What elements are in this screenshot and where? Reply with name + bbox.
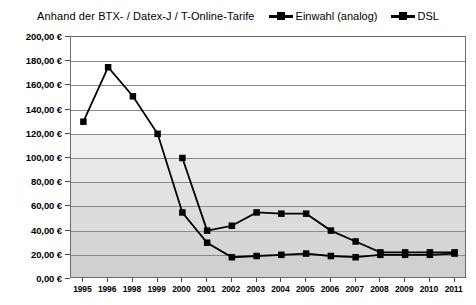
data-series-layer bbox=[71, 37, 466, 278]
y-axis-tick-label: 100,00 € bbox=[26, 152, 62, 163]
x-axis-tick-label: 2004 bbox=[271, 284, 289, 294]
data-point-marker bbox=[328, 253, 335, 260]
x-axis-tick-mark bbox=[280, 278, 281, 282]
x-axis-tick-mark bbox=[454, 278, 455, 282]
y-axis-tick-label: 160,00 € bbox=[26, 79, 62, 90]
x-axis-tick-label: 2000 bbox=[172, 284, 190, 294]
x-axis-tick-label: 2011 bbox=[445, 284, 463, 294]
data-point-marker bbox=[204, 239, 211, 246]
y-axis-tick-label: 20,00 € bbox=[31, 248, 62, 259]
y-axis-tick-label: 140,00 € bbox=[26, 103, 62, 114]
data-point-marker bbox=[278, 252, 285, 258]
x-axis-tick-label: 2005 bbox=[296, 284, 314, 294]
data-point-marker bbox=[402, 249, 409, 256]
data-point-marker bbox=[154, 131, 161, 138]
x-axis-tick-mark bbox=[404, 278, 405, 282]
x-axis-tick-label: 2007 bbox=[346, 284, 364, 294]
x-axis-tick-mark bbox=[305, 278, 306, 282]
y-axis-tick-label: 80,00 € bbox=[31, 176, 62, 187]
y-axis-tick-label: 180,00 € bbox=[26, 55, 62, 66]
x-axis: 1995199619981999200020012002200320042005… bbox=[70, 278, 466, 305]
series-line bbox=[83, 67, 454, 257]
x-axis-tick-label: 2002 bbox=[222, 284, 240, 294]
x-axis-tick-label: 2003 bbox=[247, 284, 265, 294]
data-point-marker bbox=[204, 227, 211, 234]
legend-marker-icon bbox=[391, 11, 415, 21]
x-axis-tick-mark bbox=[82, 278, 83, 282]
data-point-marker bbox=[303, 250, 310, 257]
x-axis-tick-mark bbox=[157, 278, 158, 282]
data-point-marker bbox=[427, 249, 434, 256]
x-axis-tick-mark bbox=[330, 278, 331, 282]
x-axis-tick-mark bbox=[132, 278, 133, 282]
data-point-marker bbox=[352, 254, 359, 261]
x-axis-tick-label: 1999 bbox=[148, 284, 166, 294]
y-axis-tick-label: 200,00 € bbox=[26, 31, 62, 42]
x-axis-tick-label: 2009 bbox=[395, 284, 413, 294]
data-point-marker bbox=[253, 209, 260, 216]
y-axis-tick-label: 120,00 € bbox=[26, 127, 62, 138]
x-axis-tick-mark bbox=[107, 278, 108, 282]
x-axis-tick-mark bbox=[181, 278, 182, 282]
data-point-marker bbox=[229, 254, 236, 261]
x-axis-tick-label: 2001 bbox=[197, 284, 215, 294]
x-axis-tick-label: 2008 bbox=[370, 284, 388, 294]
x-axis-tick-mark bbox=[206, 278, 207, 282]
chart-legend: Einwahl (analog) DSL bbox=[269, 10, 439, 22]
data-point-marker bbox=[130, 93, 137, 100]
x-axis-tick-label: 2010 bbox=[420, 284, 438, 294]
x-axis-tick-mark bbox=[355, 278, 356, 282]
data-point-marker bbox=[278, 210, 285, 217]
x-axis-tick-mark bbox=[231, 278, 232, 282]
x-axis-tick-mark bbox=[379, 278, 380, 282]
legend-item-einwahl: Einwahl (analog) bbox=[269, 10, 378, 22]
series-line bbox=[182, 158, 454, 252]
y-axis-tick-label: 60,00 € bbox=[31, 200, 62, 211]
legend-label-einwahl: Einwahl (analog) bbox=[296, 10, 378, 22]
data-point-marker bbox=[105, 64, 112, 71]
legend-marker-icon bbox=[269, 11, 293, 21]
chart-header: Anhand der BTX- / Datex-J / T-Online-Tar… bbox=[0, 6, 476, 26]
data-point-marker bbox=[328, 227, 335, 234]
x-axis-tick-label: 1995 bbox=[73, 284, 91, 294]
plot-area bbox=[70, 36, 466, 278]
data-point-marker bbox=[253, 253, 260, 260]
x-axis-tick-label: 1998 bbox=[123, 284, 141, 294]
data-point-marker bbox=[229, 223, 236, 230]
chart-title: Anhand der BTX- / Datex-J / T-Online-Tar… bbox=[37, 10, 254, 22]
data-point-marker bbox=[352, 238, 359, 245]
x-axis-tick-mark bbox=[429, 278, 430, 282]
legend-label-dsl: DSL bbox=[418, 10, 439, 22]
data-point-marker bbox=[377, 249, 384, 256]
data-point-marker bbox=[179, 209, 186, 216]
legend-item-dsl: DSL bbox=[391, 10, 439, 22]
x-axis-tick-mark bbox=[256, 278, 257, 282]
y-axis: 200,00 €180,00 €160,00 €140,00 €120,00 €… bbox=[0, 36, 70, 278]
data-point-marker bbox=[303, 210, 310, 217]
x-axis-tick-label: 1996 bbox=[98, 284, 116, 294]
data-point-marker bbox=[80, 118, 87, 125]
y-axis-tick-label: 0,00 € bbox=[36, 273, 62, 284]
y-axis-tick-label: 40,00 € bbox=[31, 224, 62, 235]
data-point-marker bbox=[179, 155, 186, 162]
x-axis-tick-label: 2006 bbox=[321, 284, 339, 294]
data-point-marker bbox=[451, 249, 458, 256]
chart-container: Anhand der BTX- / Datex-J / T-Online-Tar… bbox=[0, 0, 476, 305]
